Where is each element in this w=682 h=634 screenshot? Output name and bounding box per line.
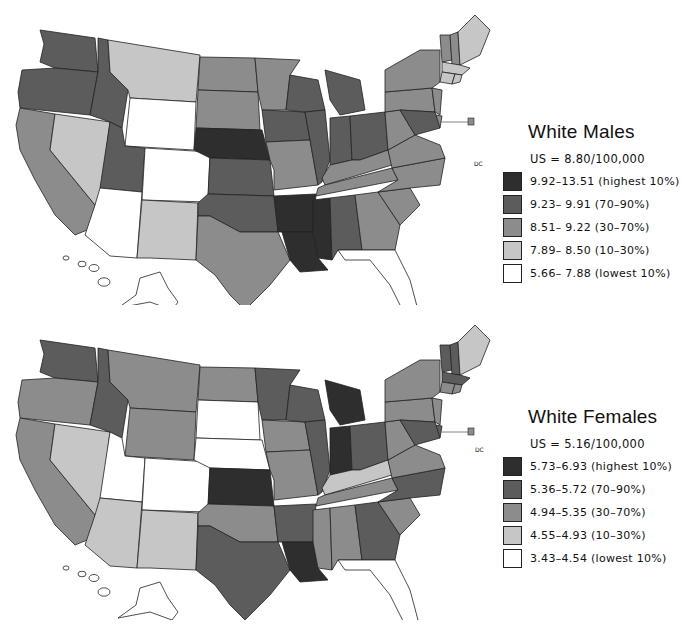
legend-row-highest: 5.73–6.93 (highest 10%)	[503, 455, 682, 478]
state-wi	[286, 75, 325, 112]
legend-white-males: White Males US = 8.80/100,000 9.92–13.51…	[500, 118, 682, 285]
legend-row-highest: 9.92–13.51 (highest 10%)	[503, 170, 682, 193]
hawaii-island	[63, 566, 69, 570]
state-ks	[208, 468, 274, 506]
dc-inset	[468, 428, 474, 435]
swatch-70-90	[503, 195, 522, 214]
hawaii-island	[63, 256, 69, 260]
legend-label: 3.43–4.54 (lowest 10%)	[530, 552, 667, 565]
legend-row-30-70: 4.94–5.35 (30–70%)	[503, 501, 682, 524]
state-me	[458, 325, 490, 375]
state-in	[330, 116, 352, 165]
legend-row-10-30: 7.89– 8.50 (10–30%)	[503, 239, 682, 262]
legend-row-70-90: 5.36–5.72 (70–90%)	[503, 478, 682, 501]
state-in	[330, 426, 352, 475]
legend-label: 8.51– 9.22 (30–70%)	[530, 221, 650, 234]
map-white-females: DC	[0, 300, 500, 620]
state-wa	[40, 340, 98, 382]
dc-inset	[468, 118, 474, 125]
legend-white-females: White Females US = 5.16/100,000 5.73–6.9…	[500, 403, 682, 570]
legend-row-lowest: 3.43–4.54 (lowest 10%)	[503, 547, 682, 570]
legend-label: 9.92–13.51 (highest 10%)	[530, 175, 680, 188]
swatch-70-90	[503, 480, 522, 499]
hawaii-island	[78, 261, 86, 267]
swatch-10-30	[503, 241, 522, 260]
state-nm	[137, 200, 198, 260]
legend-row-70-90: 9.23– 9.91 (70–90%)	[503, 193, 682, 216]
state-fl	[338, 560, 418, 620]
state-wi	[286, 385, 325, 422]
state-fl	[338, 250, 418, 305]
state-or	[18, 378, 98, 425]
legend-label: 9.23– 9.91 (70–90%)	[530, 198, 650, 211]
state-ar	[274, 194, 316, 232]
legend-title: White Males	[528, 118, 682, 146]
legend-label: 7.89– 8.50 (10–30%)	[530, 244, 650, 257]
state-wa	[40, 30, 98, 72]
swatch-lowest-10	[503, 264, 522, 283]
hawaii-island	[78, 571, 86, 577]
hawaii-island	[89, 265, 99, 272]
state-wy	[125, 408, 196, 460]
state-ny	[385, 360, 440, 402]
map-white-males: DC	[0, 0, 500, 305]
state-wy	[125, 98, 196, 150]
state-sd	[196, 90, 260, 130]
state-co	[142, 148, 210, 202]
dc-inset-label: DC	[475, 446, 484, 453]
state-mo	[266, 450, 318, 500]
us-rate: US = 8.80/100,000	[530, 152, 682, 166]
legend-row-lowest: 5.66– 7.88 (lowest 10%)	[503, 262, 682, 285]
state-nd	[198, 367, 258, 402]
state-or	[18, 68, 98, 115]
legend-label: 4.55–4.93 (10–30%)	[530, 529, 646, 542]
legend-label: 4.94–5.35 (30–70%)	[530, 506, 646, 519]
state-nd	[198, 57, 258, 92]
state-ia	[262, 110, 310, 142]
swatch-highest-10	[503, 457, 522, 476]
alaska-outline	[118, 582, 178, 620]
hawaii-island	[98, 588, 110, 596]
legend-row-10-30: 4.55–4.93 (10–30%)	[503, 524, 682, 547]
hawaii-island	[89, 575, 99, 582]
state-me	[458, 15, 490, 65]
state-ia	[262, 420, 310, 452]
state-mo	[266, 140, 318, 190]
state-ar	[274, 504, 316, 542]
state-mi	[325, 380, 365, 425]
swatch-30-70	[503, 503, 522, 522]
legend-row-30-70: 8.51– 9.22 (30–70%)	[503, 216, 682, 239]
dc-inset-label: DC	[474, 160, 483, 167]
legend-label: 5.66– 7.88 (lowest 10%)	[530, 267, 671, 280]
state-sd	[196, 400, 260, 440]
legend-label: 5.36–5.72 (70–90%)	[530, 483, 646, 496]
state-ny	[385, 50, 440, 92]
state-ne	[194, 438, 270, 470]
state-co	[142, 458, 210, 512]
swatch-lowest-10	[503, 549, 522, 568]
swatch-10-30	[503, 526, 522, 545]
us-map-svg	[0, 0, 500, 305]
state-ks	[208, 158, 274, 196]
state-mi	[325, 70, 365, 115]
us-map-svg	[0, 300, 500, 620]
swatch-highest-10	[503, 172, 522, 191]
legend-label: 5.73–6.93 (highest 10%)	[530, 460, 672, 473]
state-nm	[137, 510, 198, 570]
hawaii-island	[98, 278, 110, 286]
legend-title: White Females	[528, 403, 682, 431]
swatch-30-70	[503, 218, 522, 237]
state-ne	[194, 128, 270, 160]
us-rate: US = 5.16/100,000	[530, 437, 682, 451]
